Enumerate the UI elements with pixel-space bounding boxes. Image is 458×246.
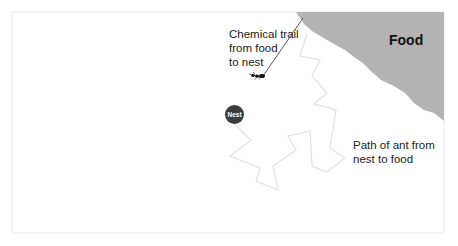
nest-marker: Nest	[225, 105, 244, 124]
nest-label: Nest	[227, 111, 241, 118]
food-label: Food	[389, 32, 423, 48]
chemical-trail-label: Chemical trail from food to nest	[229, 27, 299, 69]
ant-icon	[249, 72, 265, 80]
ant-path-label: Path of ant from nest to food	[353, 138, 435, 166]
diagram-canvas: Food Chemical trail from food to nest Pa…	[0, 0, 458, 246]
